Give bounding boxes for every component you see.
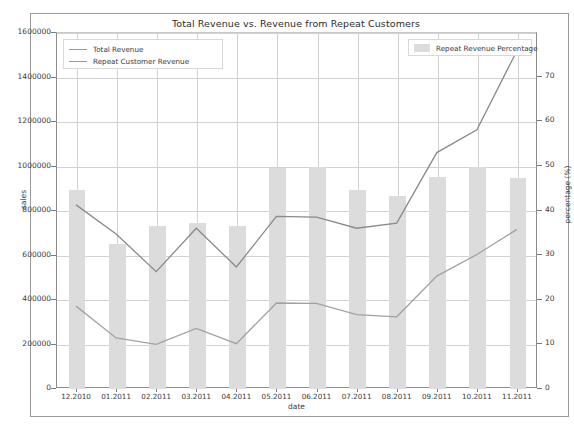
tick-mark	[537, 210, 542, 211]
y-axis-label-right: percentage (%)	[563, 165, 572, 223]
chart-figure: Total Revenue vs. Revenue from Repeat Cu…	[0, 0, 574, 430]
legend-item-repeat-revenue-percentage: Repeat Revenue Percentage	[414, 42, 526, 54]
legend-label: Repeat Revenue Percentage	[436, 44, 538, 53]
tick-mark	[537, 388, 542, 389]
y-tick-label-right: 70	[545, 71, 574, 80]
y-tick-label-right: 10	[545, 338, 574, 347]
y-tick-label-left: 1200000	[0, 116, 51, 125]
chart-title: Total Revenue vs. Revenue from Repeat Cu…	[56, 18, 536, 29]
line-total-revenue	[76, 51, 517, 272]
y-tick-label-left: 1600000	[0, 27, 51, 36]
y-tick-label-right: 50	[545, 160, 574, 169]
y-tick-label-right: 40	[545, 205, 574, 214]
line-swatch-icon	[69, 49, 87, 50]
tick-mark	[537, 165, 542, 166]
legend-item-total-revenue: Total Revenue	[69, 43, 217, 55]
y-tick-label-right: 60	[545, 115, 574, 124]
y-tick-label-right: 0	[545, 383, 574, 392]
y-tick-label-left: 1000000	[0, 161, 51, 170]
x-tick-label: 07.2011	[342, 392, 372, 401]
y-tick-label-left: 0	[0, 383, 51, 392]
tick-mark	[537, 299, 542, 300]
tick-mark	[537, 254, 542, 255]
x-tick-label: 11.2011	[502, 392, 532, 401]
line-repeat-customer-revenue	[76, 229, 517, 344]
bar-swatch-icon	[414, 44, 430, 52]
x-tick-label: 09.2011	[422, 392, 452, 401]
tick-mark	[51, 388, 56, 389]
legend-label: Repeat Customer Revenue	[93, 57, 189, 66]
legend-lines: Total Revenue Repeat Customer Revenue	[63, 39, 223, 69]
legend-bars: Repeat Revenue Percentage	[408, 39, 532, 56]
legend-label: Total Revenue	[93, 45, 143, 54]
x-tick-label: 06.2011	[302, 392, 332, 401]
y-tick-label-left: 800000	[0, 205, 51, 214]
y-tick-label-right: 20	[545, 294, 574, 303]
y-tick-label-right: 30	[545, 249, 574, 258]
y-tick-label-left: 1400000	[0, 72, 51, 81]
x-tick-label: 08.2011	[382, 392, 412, 401]
line-swatch-icon	[69, 61, 87, 62]
x-tick-label: 05.2011	[262, 392, 292, 401]
tick-mark	[537, 343, 542, 344]
y-tick-label-left: 600000	[0, 250, 51, 259]
x-tick-label: 10.2011	[462, 392, 492, 401]
x-tick-label: 03.2011	[181, 392, 211, 401]
x-tick-label: 01.2011	[101, 392, 131, 401]
y-tick-label-left: 400000	[0, 294, 51, 303]
tick-mark	[537, 76, 542, 77]
x-tick-label: 12.2010	[61, 392, 91, 401]
x-tick-label: 04.2011	[222, 392, 252, 401]
x-tick-label: 02.2011	[141, 392, 171, 401]
line-series-group	[56, 32, 537, 388]
x-axis-label: date	[56, 402, 537, 411]
tick-mark	[537, 120, 542, 121]
legend-item-repeat-customer-revenue: Repeat Customer Revenue	[69, 55, 217, 67]
y-tick-label-left: 200000	[0, 339, 51, 348]
